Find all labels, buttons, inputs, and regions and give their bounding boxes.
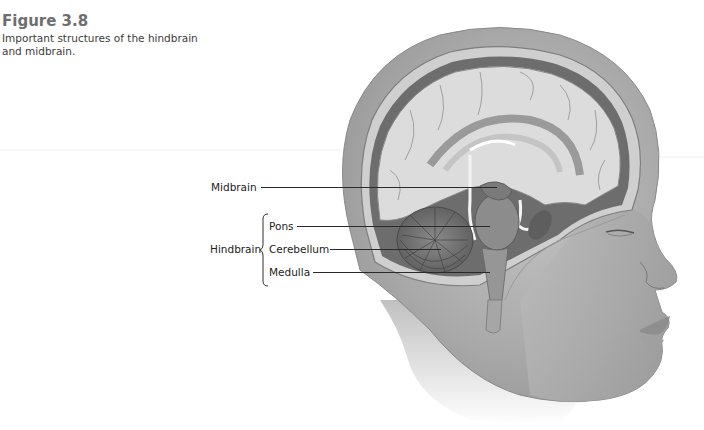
leader-medulla bbox=[313, 272, 490, 273]
pons bbox=[475, 194, 519, 250]
label-medulla: Medulla bbox=[269, 266, 310, 278]
label-midbrain: Midbrain bbox=[211, 181, 257, 193]
label-hindbrain: Hindbrain bbox=[210, 243, 261, 255]
leader-midbrain bbox=[261, 187, 497, 188]
head-sagittal-illustration bbox=[0, 0, 704, 430]
leader-cerebellum bbox=[330, 249, 441, 250]
label-cerebellum: Cerebellum bbox=[269, 243, 329, 255]
label-pons: Pons bbox=[269, 220, 294, 232]
leader-pons bbox=[297, 226, 490, 227]
